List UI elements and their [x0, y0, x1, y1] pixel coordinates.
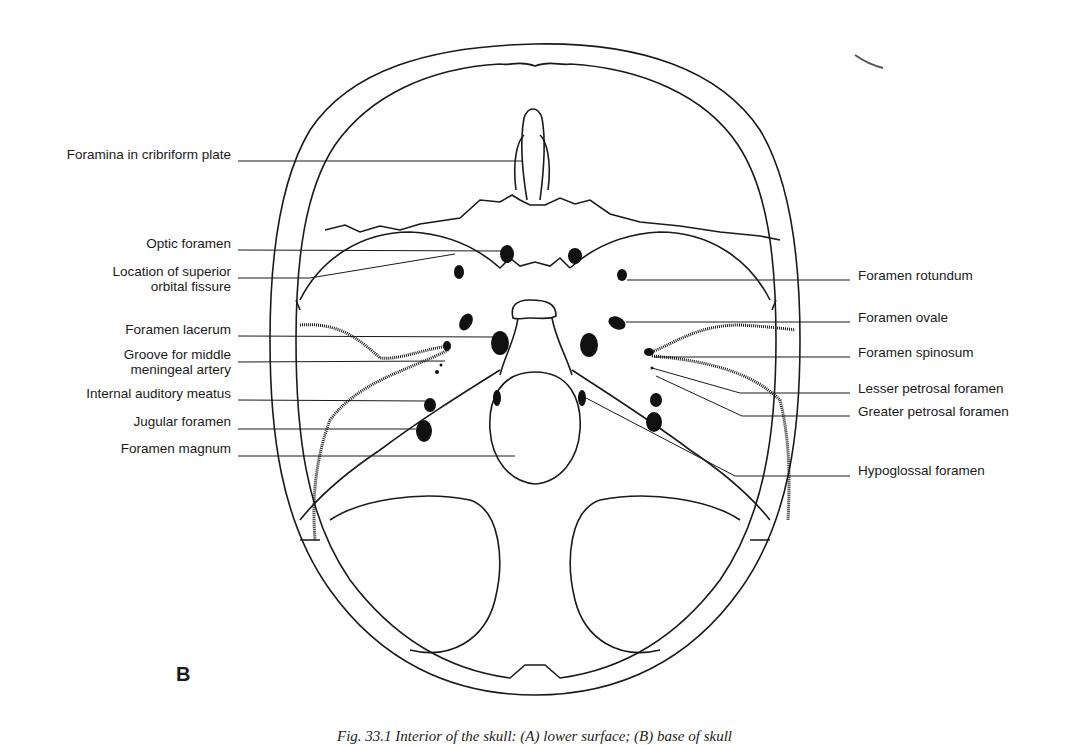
foramen-ovale-left — [456, 311, 475, 333]
leader-greater-petrosal — [656, 376, 850, 416]
cribriform-plate — [522, 109, 544, 200]
jugular-foramen-right — [646, 412, 662, 432]
label-foramina-cribriform-plate: Foramina in cribriform plate — [67, 147, 231, 162]
foramen-lacerum-right — [580, 333, 598, 357]
sof-left — [454, 265, 464, 279]
label-lesser-petrosal-foramen: Lesser petrosal foramen — [858, 381, 1004, 396]
internal-auditory-meatus-right — [650, 393, 662, 407]
leader-lacerum — [238, 336, 493, 337]
label-foramen-spinosum: Foramen spinosum — [858, 345, 974, 360]
label-internal-auditory-meatus: Internal auditory meatus — [86, 386, 231, 401]
foramen-rotundum-right — [617, 269, 627, 281]
label-foramen-magnum: Foramen magnum — [121, 441, 231, 456]
leader-iam — [238, 400, 425, 401]
hypoglossal-foramen-left — [493, 390, 501, 406]
label-greater-petrosal-foramen: Greater petrosal foramen — [858, 404, 1009, 419]
leader-meningeal — [238, 361, 445, 362]
leader-sof — [238, 254, 455, 278]
panel-letter: B — [176, 663, 190, 686]
foramen-spinosum-right — [644, 348, 654, 356]
meningeal-groove-left — [300, 325, 448, 359]
internal-auditory-meatus-left — [424, 398, 436, 412]
label-hypoglossal-foramen: Hypoglossal foramen — [858, 463, 985, 478]
lesser-wing-left — [300, 232, 570, 300]
figure-caption: Fig. 33.1 Interior of the skull: (A) low… — [0, 728, 1069, 745]
foramen-lacerum-left — [491, 331, 509, 355]
skull-outer-contour — [270, 44, 800, 695]
leader-hypoglossal — [586, 398, 850, 476]
leader-optic — [238, 250, 502, 251]
meningeal-groove-right — [652, 325, 795, 352]
jugular-foramen-left — [416, 420, 432, 442]
label-groove-middle-meningeal: Groove for middle meningeal artery — [124, 347, 231, 377]
foramen-magnum-outline — [490, 372, 580, 484]
foramen-ovale-right — [606, 314, 627, 332]
posterior-fossa-right — [570, 496, 740, 652]
dorsum-sellae — [512, 300, 556, 319]
skull-inner-contour — [296, 63, 776, 678]
foramen-spinosum-left — [443, 341, 451, 351]
label-superior-orbital-fissure: Location of superior orbital fissure — [112, 264, 231, 294]
label-jugular-foramen: Jugular foramen — [133, 414, 231, 429]
optic-foramen-left — [500, 245, 514, 263]
optic-foramen-right — [568, 248, 582, 264]
clivus — [500, 318, 572, 375]
label-foramen-ovale: Foramen ovale — [858, 310, 948, 325]
label-foramen-lacerum: Foramen lacerum — [125, 322, 231, 337]
label-foramen-rotundum: Foramen rotundum — [858, 268, 973, 283]
hypoglossal-foramen-right — [578, 390, 586, 406]
label-optic-foramen: Optic foramen — [146, 236, 231, 251]
posterior-fossa-left — [330, 496, 500, 652]
lesser-wing-right — [570, 232, 770, 300]
